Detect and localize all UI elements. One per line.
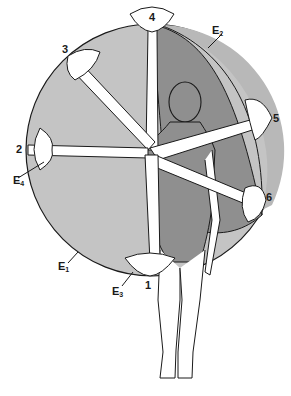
- envelope-label-e4: E4: [13, 175, 24, 187]
- envelope-label-subscript: 3: [119, 291, 123, 298]
- envelope-label-e1: E1: [58, 261, 69, 273]
- e1-leader-line: [68, 252, 78, 263]
- envelope-label-e2: E2: [212, 25, 223, 37]
- figure-head: [169, 82, 201, 122]
- position-label-5: 5: [273, 113, 279, 124]
- position-label-1: 1: [145, 280, 151, 291]
- diagram-stage: 4 3 2 5 6 1 E2 E4 E1 E3: [0, 0, 291, 396]
- envelope-label-e3: E3: [112, 286, 123, 298]
- position-label-3: 3: [62, 44, 68, 55]
- range-of-motion-diagram: [0, 0, 291, 396]
- envelope-label-subscript: 4: [20, 180, 24, 187]
- hand-envelope-6: [242, 186, 266, 222]
- position-label-2: 2: [16, 144, 22, 155]
- envelope-label-subscript: 2: [219, 30, 223, 37]
- position-label-4: 4: [149, 12, 155, 23]
- figure-right-leg: [178, 250, 205, 378]
- position-label-6: 6: [266, 192, 272, 203]
- envelope-label-subscript: 1: [65, 266, 69, 273]
- arm-position-4: [146, 30, 158, 150]
